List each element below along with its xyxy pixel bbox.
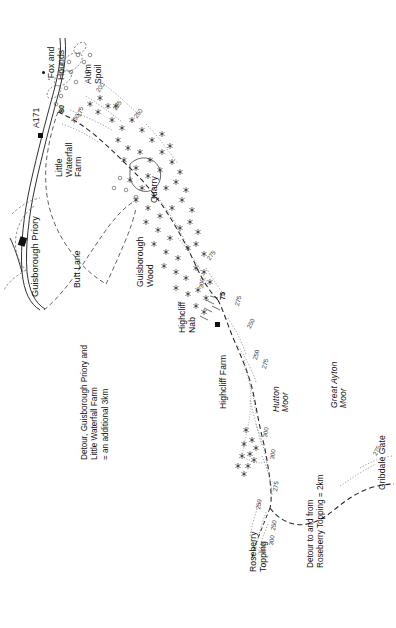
place-label-little-waterfall-farm: Little Waterfall Farm <box>55 143 84 178</box>
place-label-gribdale-gate: Gribdale Gate <box>378 435 388 490</box>
place-label-quarry: Quarry <box>150 176 160 203</box>
place-label-great-ayton-moor: Great Ayton Moor <box>330 361 349 408</box>
quarry-pits <box>112 176 138 199</box>
contour-lines <box>62 84 392 554</box>
note-detour-roseberry: Detour to and from Roseberry Topping = 2… <box>306 475 327 568</box>
place-label-butt-lane: Butt Lane <box>73 250 83 288</box>
building-marker-a171 <box>38 133 43 138</box>
note-detour-guisborough: Detour, Guisborough Priory and Little Wa… <box>80 345 111 460</box>
route-map: 'Fox and Hounds' Alum Spoil A171 Little … <box>0 0 396 628</box>
place-label-highcliff-nab: Highcliff Nab <box>178 302 197 333</box>
building-marker-highcliff-farm <box>215 322 220 327</box>
woodland-trees-roseberry <box>235 427 258 477</box>
spot-height-75: 75 <box>219 292 227 300</box>
place-label-guisborough-wood: Guisborough Wood <box>136 237 155 287</box>
place-label-a171: A171 <box>32 108 42 128</box>
spot-height-80: 80 <box>58 105 66 113</box>
map-vector-layer <box>0 0 396 628</box>
place-label-guisborough-priory: Guisborough Priory <box>30 216 40 297</box>
place-label-highcliff-farm: Highcliff Farm <box>219 355 229 409</box>
place-label-hutton-moor: Hutton Moor <box>272 386 291 412</box>
main-route-path <box>58 112 394 525</box>
point-marker-fox-and-hounds <box>42 71 45 74</box>
place-label-fox-and-hounds: 'Fox and Hounds' <box>47 47 66 81</box>
side-track-lines <box>242 360 266 463</box>
